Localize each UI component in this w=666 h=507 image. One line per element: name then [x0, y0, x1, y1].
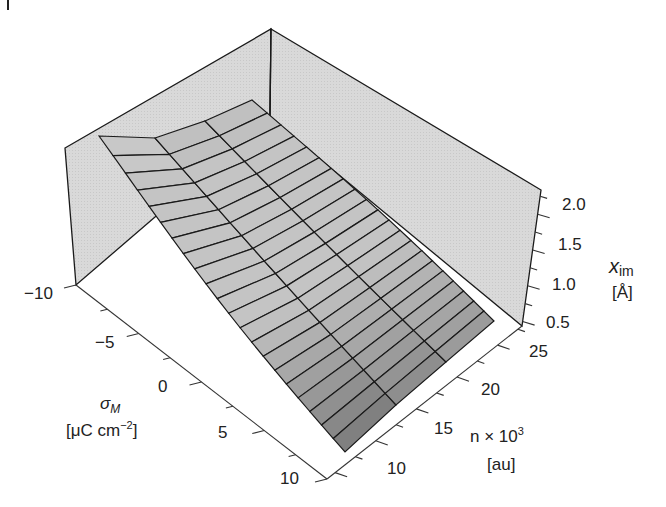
tick-mark — [252, 431, 264, 434]
tick-mark — [538, 214, 550, 218]
tick-mark — [100, 309, 107, 311]
z-tick-label: 1.5 — [558, 236, 582, 253]
tick-mark — [437, 393, 444, 395]
tick-mark — [163, 358, 170, 360]
sigma-axis-title: σM — [100, 395, 120, 412]
z-tick-label: 2.0 — [562, 196, 586, 213]
z-tick-label: 0.5 — [546, 314, 570, 331]
sigma-tick-label: 5 — [218, 424, 227, 441]
tick-mark — [315, 479, 327, 482]
sigma-tick-label: 10 — [280, 470, 299, 487]
tick-mark — [530, 268, 537, 270]
tick-mark — [518, 329, 525, 331]
n-axis-unit: [au] — [487, 456, 515, 473]
tick-mark — [376, 441, 388, 445]
z-axis-unit: [Å] — [612, 284, 633, 301]
tick-mark — [127, 334, 139, 337]
sigma-tick-label: 0 — [158, 378, 167, 395]
sigma-tick-label: −10 — [24, 285, 53, 302]
tick-mark — [190, 382, 202, 385]
tick-mark — [226, 406, 233, 408]
n-tick-label: 20 — [481, 381, 500, 398]
n-tick-label: 15 — [434, 420, 453, 437]
tick-mark — [457, 377, 469, 381]
n-tick-label: 25 — [529, 343, 548, 360]
tick-mark — [533, 250, 545, 254]
tick-mark — [525, 304, 532, 306]
sigma-tick-label: −5 — [95, 334, 114, 351]
n-tick-label: 10 — [387, 460, 406, 477]
z-axis-title: xim — [609, 256, 634, 276]
tick-mark — [523, 322, 535, 326]
tick-mark — [396, 425, 403, 427]
tick-mark — [498, 345, 510, 349]
tick-mark — [528, 286, 540, 290]
n-axis-title: n × 103 — [470, 426, 524, 445]
tick-mark — [416, 409, 428, 413]
tick-mark — [477, 361, 484, 363]
sigma-axis-unit: [μC cm−2] — [66, 420, 137, 439]
tick-mark — [535, 232, 542, 234]
tick-mark — [335, 473, 347, 477]
tick-mark — [64, 285, 76, 288]
z-tick-label: 1.0 — [552, 276, 576, 293]
tick-mark — [289, 455, 296, 457]
tick-mark — [355, 457, 362, 459]
tick-mark — [540, 196, 547, 198]
